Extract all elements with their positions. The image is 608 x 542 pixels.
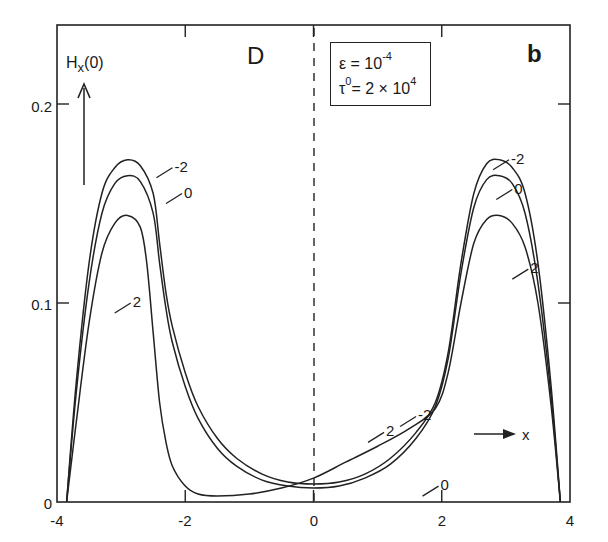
panel-label: b xyxy=(527,40,542,68)
plot-frame xyxy=(57,25,570,502)
curve-label: 0 xyxy=(441,476,449,493)
parameter-box: ε = 10-4 τ0= 2 × 104 xyxy=(330,42,431,106)
x-tick-label: -4 xyxy=(50,512,63,529)
epsilon-param: ε = 10-4 xyxy=(339,53,392,73)
curve-label: 2 xyxy=(386,422,394,439)
x-tick-label: 4 xyxy=(566,512,574,529)
curve-label: -2 xyxy=(418,406,431,423)
region-label: D xyxy=(247,42,264,70)
y-tick-label: 0.1 xyxy=(12,296,52,313)
y-tick-label: 0.2 xyxy=(12,98,52,115)
x-tick-label: -2 xyxy=(178,512,191,529)
x-axis-label: x xyxy=(522,426,530,443)
curve-label: -2 xyxy=(174,158,187,175)
x-tick-label: 0 xyxy=(310,512,318,529)
chart-canvas xyxy=(0,0,608,542)
label-leaders xyxy=(115,160,529,496)
curve-label: -2 xyxy=(511,150,524,167)
curve-label: 0 xyxy=(514,180,522,197)
curve-label: 0 xyxy=(184,184,192,201)
tau-param: τ0= 2 × 104 xyxy=(339,78,416,98)
x-tick-label: 2 xyxy=(438,512,446,529)
curve-label: 2 xyxy=(133,293,141,310)
curve-label: 2 xyxy=(530,259,538,276)
axis-ticks xyxy=(57,25,570,502)
y-tick-label: 0 xyxy=(12,495,52,512)
y-axis-label: Hx(0) xyxy=(66,54,104,75)
xlabel-arrow-icon xyxy=(503,429,516,439)
